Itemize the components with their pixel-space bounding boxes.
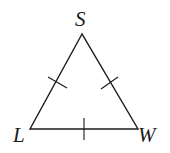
tick-mark-sw bbox=[101, 77, 118, 89]
triangle-slw bbox=[30, 34, 138, 129]
triangle-diagram: S L W bbox=[0, 0, 170, 153]
vertex-label-w: W bbox=[138, 123, 158, 147]
vertex-label-s: S bbox=[75, 7, 86, 31]
vertex-label-l: L bbox=[12, 123, 25, 147]
